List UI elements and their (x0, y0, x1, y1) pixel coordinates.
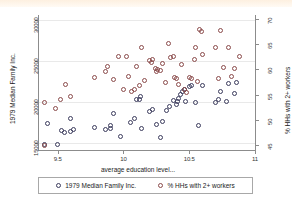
data-point (234, 80, 239, 85)
data-point (92, 75, 97, 80)
data-point (53, 106, 58, 111)
legend-label: % HHs with 2+ workers (167, 182, 234, 189)
data-point (221, 65, 226, 70)
data-point (62, 130, 67, 135)
data-point (216, 97, 221, 102)
data-point (226, 81, 231, 86)
data-point (108, 126, 113, 131)
data-point (232, 66, 237, 71)
data-point (42, 143, 47, 148)
data-points-layer (0, 0, 292, 199)
data-point (103, 69, 108, 74)
data-point (137, 83, 142, 88)
legend-item-workers[interactable]: % HHs with 2+ workers (158, 182, 234, 189)
data-point (45, 121, 50, 126)
data-point (226, 45, 231, 50)
data-point (193, 100, 198, 105)
data-point (42, 100, 47, 105)
data-point (179, 62, 184, 67)
data-point (111, 111, 116, 116)
data-point (237, 54, 242, 59)
data-point (232, 91, 237, 96)
data-point (184, 90, 189, 95)
data-point (160, 119, 165, 124)
data-point (174, 76, 179, 81)
data-point (142, 78, 147, 83)
data-point (158, 68, 163, 73)
data-point (163, 80, 168, 85)
chart-legend: 1979 Median Family Inc. % HHs with 2+ wo… (38, 177, 253, 194)
data-point (105, 64, 110, 69)
data-point (118, 134, 123, 139)
data-point (199, 29, 204, 34)
data-point (189, 76, 194, 81)
scatter-plot-figure: 150002000025000300004550556065709.51010.… (0, 0, 292, 199)
data-point (139, 126, 144, 131)
data-point (193, 45, 198, 50)
data-point (139, 45, 144, 50)
data-point (68, 94, 73, 99)
data-point (58, 97, 63, 102)
data-point (121, 87, 126, 92)
data-point (196, 123, 201, 128)
data-point (183, 99, 188, 104)
data-point (68, 116, 73, 121)
data-point (218, 89, 223, 94)
data-point (158, 135, 163, 140)
legend-item-income[interactable]: 1979 Median Family Inc. (56, 182, 136, 189)
data-point (167, 104, 172, 109)
data-point (150, 107, 155, 112)
data-point (229, 74, 234, 79)
data-point (150, 57, 155, 62)
data-point (71, 127, 76, 132)
data-point (132, 116, 137, 121)
legend-marker-circle-icon (56, 183, 61, 188)
data-point (138, 94, 143, 99)
data-point (195, 79, 200, 84)
data-point (132, 87, 137, 92)
data-point (218, 28, 223, 33)
data-point (213, 45, 218, 50)
data-point (166, 41, 171, 46)
data-point (160, 61, 165, 66)
data-point (124, 54, 129, 59)
data-point (103, 127, 108, 132)
data-point (55, 142, 60, 147)
data-point (154, 122, 159, 127)
data-point (224, 99, 229, 104)
data-point (134, 64, 139, 69)
data-point (200, 83, 205, 88)
data-point (192, 57, 197, 62)
data-point (111, 77, 116, 82)
data-point (126, 74, 131, 79)
legend-label: 1979 Median Family Inc. (65, 182, 136, 189)
data-point (116, 54, 121, 59)
data-point (171, 54, 176, 59)
data-point (63, 82, 68, 87)
data-point (189, 83, 194, 88)
data-point (176, 82, 181, 87)
legend-marker-circle-icon (158, 183, 163, 188)
data-point (200, 52, 205, 57)
data-point (216, 76, 221, 81)
data-point (92, 125, 97, 130)
